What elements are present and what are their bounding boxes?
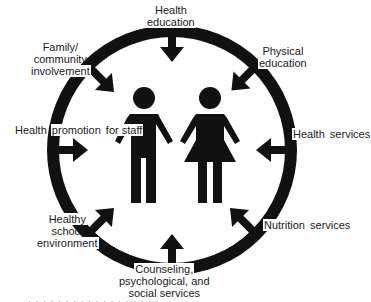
person-male-icon [115,87,173,203]
label-health-services: Health services [292,128,371,140]
figure-caption: · · · · · · · · · · · · · · · · · · [28,296,159,302]
label-health-education: Health education [146,4,196,28]
label-health-promotion-staff: Health promotion for staff [14,124,143,136]
label-family-community: Family/ community involvement [30,41,91,77]
person-female-icon [180,87,240,203]
label-counseling-services: Counseling, psychological, and social se… [119,263,210,299]
label-nutrition-services: Nutrition services [263,219,351,231]
label-physical-education: Physical education [258,45,308,69]
label-healthy-school-environment: Healthy school environment [36,213,99,249]
